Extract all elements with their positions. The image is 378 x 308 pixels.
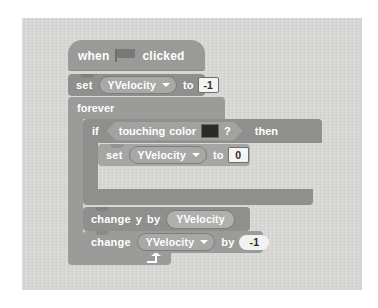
change-label: change [91,236,131,248]
block-set-variable-outer[interactable]: set YVelocity to -1 [68,74,205,96]
block-notch [80,74,94,78]
to-label: to [183,79,194,91]
if-top-bar[interactable]: if touching color ? then [83,119,322,143]
change-label: change [91,213,131,225]
screenshot-root: when clicked set YVelocity to -1 forever [0,0,378,308]
forever-left-spine [68,119,83,249]
value-input-zero[interactable]: 0 [228,147,249,163]
loop-arrow-icon [146,252,162,263]
if-bottom-bar[interactable] [83,189,313,205]
y-label: y [136,213,142,225]
reporter-yvelocity[interactable]: YVelocity [166,210,235,229]
if-left-spine [83,143,98,189]
block-change-y-by[interactable]: change y by YVelocity [83,207,250,231]
boolean-touching-color[interactable]: touching color ? [107,122,243,141]
variable-dropdown-yvelocity[interactable]: YVelocity [137,233,216,251]
chevron-down-icon [192,153,200,157]
color-swatch[interactable] [201,124,219,138]
chevron-down-icon [162,83,170,87]
value-input-minus-one[interactable]: -1 [198,77,219,93]
then-label: then [255,125,278,137]
block-set-variable-inner[interactable]: set YVelocity to 0 [98,144,250,166]
variable-dropdown-yvelocity[interactable]: YVelocity [99,76,178,94]
set-label: set [76,79,93,91]
chevron-down-icon [200,240,208,244]
green-flag-icon [115,49,135,62]
by-label: by [221,236,234,248]
variable-name: YVelocity [108,79,157,91]
color-label: color [169,125,196,137]
question-mark-label: ? [224,125,231,137]
clicked-label: clicked [142,49,184,63]
block-notch [95,231,109,235]
set-label: set [106,149,123,161]
to-label: to [213,149,224,161]
block-notch [110,144,124,148]
if-label: if [92,125,99,137]
forever-top-bar[interactable]: forever [68,97,225,119]
scripts-canvas[interactable]: when clicked set YVelocity to -1 forever [22,18,362,290]
variable-name: YVelocity [138,149,187,161]
by-label: by [147,213,160,225]
when-label: when [78,49,109,63]
block-when-flag-clicked[interactable]: when clicked [68,40,205,71]
forever-label: forever [77,102,114,114]
variable-name: YVelocity [146,236,195,248]
variable-dropdown-yvelocity[interactable]: YVelocity [129,146,208,164]
block-notch [95,207,109,211]
block-change-variable-by[interactable]: change YVelocity by -1 [83,231,263,253]
touching-label: touching [119,125,165,137]
value-input-minus-one[interactable]: -1 [239,235,269,250]
